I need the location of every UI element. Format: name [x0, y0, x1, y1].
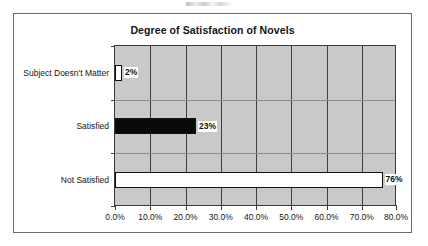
bar-not-satisfied[interactable] [115, 172, 383, 188]
x-axis-tick-10 [150, 205, 151, 210]
bar-value-subject-doesnt-matter: 2% [124, 67, 138, 78]
y-axis-tick-2 [111, 153, 115, 154]
category-separator-1 [115, 100, 395, 101]
bar-value-satisfied: 23% [198, 121, 217, 132]
x-axis-label-50: 50.0% [279, 212, 303, 222]
y-axis-tick-0 [111, 46, 115, 47]
bar-subject-doesnt-matter[interactable] [115, 65, 122, 81]
x-axis-label-10: 10.0% [138, 212, 162, 222]
x-axis-label-40: 40.0% [244, 212, 268, 222]
x-axis-tick-30 [221, 205, 222, 210]
x-axis-label-80: 80.0% [384, 212, 408, 222]
x-axis-tick-70 [362, 205, 363, 210]
category-separator-2 [115, 153, 395, 154]
x-axis-tick-50 [291, 205, 292, 210]
x-axis-tick-60 [327, 205, 328, 210]
x-axis-tick-80 [396, 205, 397, 210]
y-axis-tick-1 [111, 100, 115, 101]
chart-title: Degree of Satisfaction of Novels [14, 24, 411, 36]
x-axis-tick-40 [256, 205, 257, 210]
x-axis-label-20: 20.0% [173, 212, 197, 222]
x-axis-tick-20 [186, 205, 187, 210]
y-axis-label-satisfied: Satisfied [76, 121, 109, 131]
x-axis-label-0: 0.0% [105, 212, 124, 222]
x-axis-label-60: 60.0% [314, 212, 338, 222]
bar-value-not-satisfied: 76% [385, 174, 404, 185]
y-axis-label-not-satisfied: Not Satisfied [61, 175, 109, 185]
x-axis-label-70: 70.0% [350, 212, 374, 222]
plot-area: Subject Doesn't Matter Satisfied Not Sat… [114, 45, 396, 206]
x-axis-tick-0 [115, 205, 116, 210]
x-axis-label-30: 30.0% [209, 212, 233, 222]
y-axis-label-subject-doesnt-matter: Subject Doesn't Matter [23, 68, 109, 78]
bar-satisfied[interactable] [115, 118, 196, 134]
chart-frame: Degree of Satisfaction of Novels Subject… [13, 13, 412, 233]
scan-artifact [186, 2, 232, 6]
